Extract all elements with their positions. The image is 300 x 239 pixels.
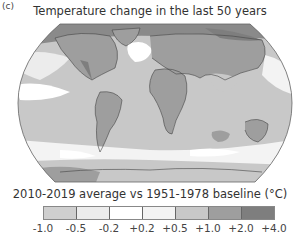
tick-label: -0.2 xyxy=(99,222,120,234)
world-map xyxy=(0,0,300,239)
tick-label: +0.2 xyxy=(129,222,155,234)
tick-label: +2.0 xyxy=(228,222,254,234)
colorbar-bin xyxy=(209,207,242,219)
colorbar-bin xyxy=(242,207,274,219)
colorbar-ticks: -1.0 -0.5 -0.2 +0.2 +0.5 +1.0 +2.0 +4.0 xyxy=(0,222,300,238)
colorbar-bin xyxy=(143,207,176,219)
colorbar-bin xyxy=(176,207,209,219)
tick-label: +4.0 xyxy=(261,222,287,234)
tick-label: +1.0 xyxy=(195,222,221,234)
colorbar-bin xyxy=(44,207,77,219)
tick-label: -0.5 xyxy=(66,222,87,234)
legend-title: 2010-2019 average vs 1951-1978 baseline … xyxy=(0,187,300,201)
colorbar-bin xyxy=(77,207,110,219)
colorbar-bin xyxy=(110,207,143,219)
tick-label: -1.0 xyxy=(33,222,54,234)
colorbar xyxy=(43,206,275,220)
tick-label: +0.5 xyxy=(162,222,188,234)
